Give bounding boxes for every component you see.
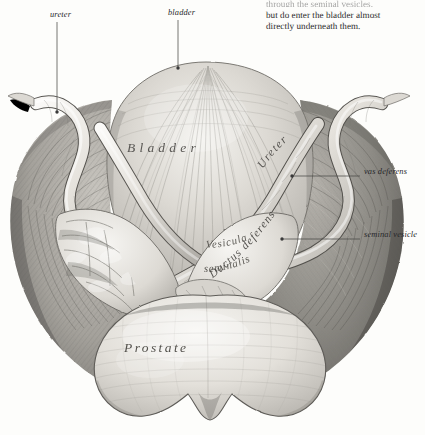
caption-clipped-line: through the seminal vesicles, xyxy=(266,0,424,7)
label-bladder: bladder xyxy=(168,8,195,17)
label-vas-deferens: vas deferens xyxy=(364,167,407,176)
paper-grain-overlay xyxy=(0,0,425,435)
caption-block: through the seminal vesicles, but do ent… xyxy=(266,2,424,33)
caption-line-1: but do enter the bladder almost xyxy=(266,10,424,21)
label-ureter: ureter xyxy=(50,10,71,19)
illustration-plate: Bladder Prostate Ureter Ductus deferens … xyxy=(0,0,425,435)
anatomy-engraving: Bladder Prostate Ureter Ductus deferens … xyxy=(0,0,425,435)
caption-line-2: directly underneath them. xyxy=(266,21,424,32)
label-seminal-vesicle: seminal vesicle xyxy=(364,230,417,239)
